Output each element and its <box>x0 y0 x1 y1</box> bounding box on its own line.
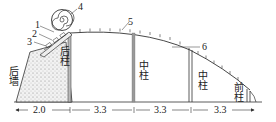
front-pillar-label: 前柱 <box>232 82 242 102</box>
callout-5: 5 <box>128 17 133 27</box>
dimension-span-3: 3.3 <box>214 105 227 115</box>
callout-3: 3 <box>27 37 32 47</box>
middle-pillar-1 <box>132 33 135 102</box>
callout-2: 2 <box>32 29 37 39</box>
middle-pillar-1-label: 中柱 <box>137 60 147 80</box>
roof-film <box>70 32 250 90</box>
dimension-span-1: 3.3 <box>94 105 107 115</box>
back-pillar <box>68 34 71 102</box>
dimension-span-2: 3.3 <box>154 105 167 115</box>
back-pillar-label: 后柱 <box>58 46 68 66</box>
callout-4: 4 <box>78 2 83 12</box>
callout-6: 6 <box>202 42 207 52</box>
rolled-mat-icon <box>52 10 75 31</box>
dimension-back-wall: 2.0 <box>33 105 46 115</box>
middle-pillar-2-label: 中柱 <box>196 70 206 90</box>
back-wall-label: 后墙 <box>7 66 17 86</box>
